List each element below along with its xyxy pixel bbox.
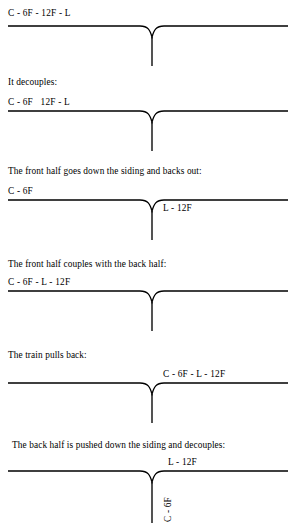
track-diagram-step-6 [0,467,299,527]
main-line-with-junction-step-5 [8,383,288,394]
caption-step-6: The back half is pushed down the siding … [12,440,225,451]
track-diagram-step-2 [0,107,299,157]
track-diagram-step-5 [0,379,299,429]
track-diagram-step-1 [0,22,299,72]
main-line-with-junction-step-1 [8,26,288,37]
caption-step-2: It decouples: [8,77,57,88]
track-diagram-step-3 [0,196,299,246]
train-label-step-1: C - 6F - 12F - L [8,8,71,19]
caption-step-3: The front half goes down the siding and … [8,166,202,177]
main-line-with-junction-step-4 [8,291,288,302]
main-line-with-junction-step-3 [8,200,288,211]
caption-step-4: The front half couples with the back hal… [8,259,166,270]
diagram-page: C - 6F - 12F - L It decouples: C - 6F 12… [0,0,299,529]
track-diagram-step-4 [0,287,299,337]
caption-step-5: The train pulls back: [8,350,87,361]
siding-label-step-6: C - 6F [163,497,174,522]
main-line-with-junction-step-6 [8,471,288,482]
siding-label-step-3: L - 12F [163,203,192,214]
main-line-with-junction-step-2 [8,111,288,122]
